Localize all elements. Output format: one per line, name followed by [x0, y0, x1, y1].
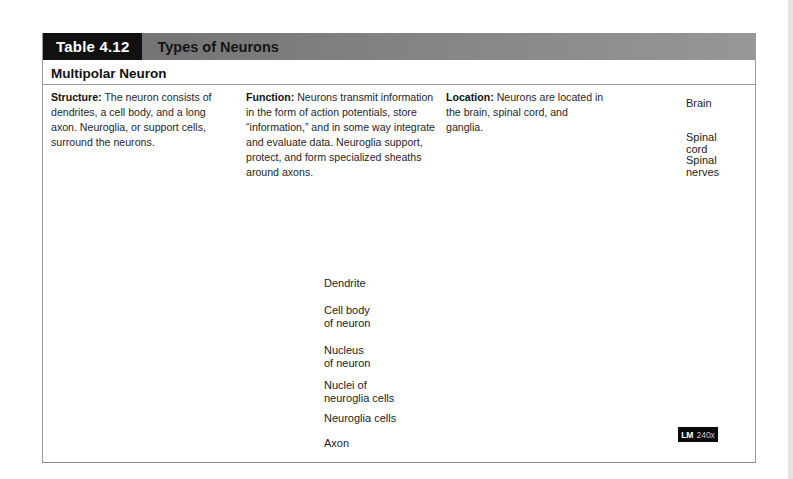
- section-title: Multipolar Neuron: [51, 66, 167, 81]
- spinal-cord-label: Spinal cord: [686, 132, 717, 155]
- page-scan-edge: [788, 0, 793, 479]
- cell-body-label: Cell body of neuron: [324, 304, 370, 329]
- spinal-nerves-label: Spinal nerves: [686, 155, 719, 178]
- table-number: Table 4.12: [43, 33, 142, 60]
- axon-label: Axon: [324, 437, 349, 450]
- table-header: Table 4.12 Types of Neurons: [43, 33, 755, 60]
- location-column: Location: Neurons are located in the bra…: [446, 90, 606, 135]
- location-label: Location:: [446, 91, 494, 103]
- dendrite-label: Dendrite: [324, 277, 366, 290]
- structure-label: Structure:: [51, 91, 102, 103]
- nucleus-label: Nucleus of neuron: [324, 344, 370, 369]
- neuroglia-cells-label: Neuroglia cells: [324, 412, 396, 425]
- table-title: Types of Neurons: [142, 33, 755, 60]
- function-column: Function: Neurons transmit information i…: [246, 90, 442, 180]
- brain-label: Brain: [686, 98, 712, 110]
- structure-column: Structure: The neuron consists of dendri…: [51, 90, 233, 150]
- magnification-type: LM: [681, 430, 693, 440]
- micrograph-magnification-badge: LM240x: [678, 427, 718, 442]
- section-divider: [43, 84, 755, 85]
- neuroglia-nuclei-label: Nuclei of neuroglia cells: [324, 379, 394, 404]
- page: Table 4.12 Types of Neurons Multipolar N…: [0, 0, 793, 479]
- magnification-value: 240x: [696, 430, 714, 440]
- function-text: Neurons transmit information in the form…: [246, 91, 435, 178]
- function-label: Function:: [246, 91, 294, 103]
- table-panel: Table 4.12 Types of Neurons Multipolar N…: [42, 33, 756, 463]
